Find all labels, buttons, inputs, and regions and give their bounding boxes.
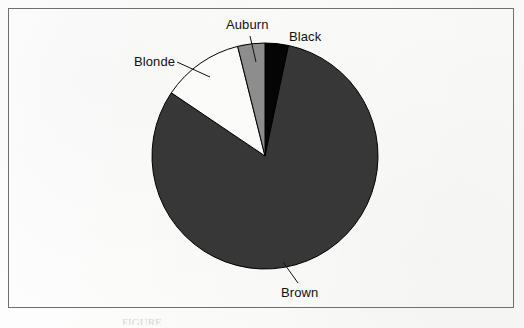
pie-label-black: Black	[289, 30, 321, 43]
figure-page: Auburn Black Blonde Brown FIGURE	[0, 0, 524, 328]
bottom-caption-fragment: FIGURE	[122, 316, 162, 325]
pie-label-auburn: Auburn	[226, 18, 269, 31]
pie-label-blonde: Blonde	[134, 55, 175, 68]
pie-chart-svg	[0, 0, 524, 328]
pie-chart: Auburn Black Blonde Brown	[0, 0, 524, 328]
pie-slices-group	[152, 43, 378, 269]
pie-label-brown: Brown	[281, 286, 318, 299]
